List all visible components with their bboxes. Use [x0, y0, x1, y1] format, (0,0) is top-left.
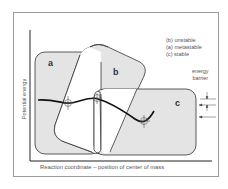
- legend: (b) unstable (a) metastable (c) stable: [166, 37, 202, 58]
- energy-barrier-line2: barrier: [192, 75, 208, 82]
- diagram-canvas: [0, 0, 228, 189]
- legend-item-metastable: (a) metastable: [166, 44, 202, 51]
- region-c-label: c: [175, 98, 180, 108]
- energy-barrier-line1: energy: [192, 68, 208, 75]
- y-axis-label: Potential energy: [21, 69, 27, 129]
- legend-item-stable: (c) stable: [166, 51, 202, 58]
- energy-barrier-arrows: [199, 92, 216, 118]
- region-b-label: b: [113, 67, 119, 77]
- x-axis-label: Reaction coordinate – position of center…: [40, 164, 164, 170]
- energy-barrier-label: energy barrier: [192, 68, 208, 82]
- legend-item-unstable: (b) unstable: [166, 37, 202, 44]
- region-a-label: a: [48, 58, 53, 68]
